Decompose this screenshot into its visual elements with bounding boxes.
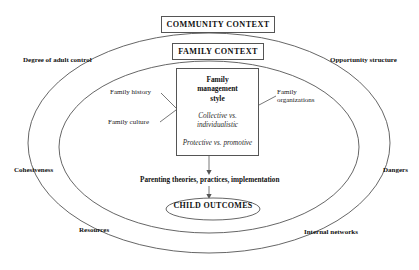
family-context-label: FAMILY CONTEXT (178, 47, 258, 56)
ecological-model-diagram: COMMUNITY CONTEXT FAMILY CONTEXT Family … (0, 0, 419, 270)
community-context-title-box: COMMUNITY CONTEXT (161, 16, 275, 33)
influence-label-family-organizations: Family organizations (277, 88, 323, 105)
connector-family-culture (160, 110, 176, 122)
family-management-title-line-2: management (197, 84, 238, 93)
connector-family-organizations (259, 96, 276, 105)
family-context-title-box: FAMILY CONTEXT (172, 43, 264, 60)
arrowhead-core-to-mediator (206, 170, 211, 175)
family-management-style-title: Family management style (197, 75, 238, 103)
mediator-label-parenting-theories: Parenting theories, practices, implement… (140, 176, 279, 184)
community-factor-dangers: Dangers (383, 167, 408, 175)
community-factor-internal-networks: Internal networks (304, 229, 358, 237)
family-management-dimension-protective: Protective vs. promotive (183, 139, 253, 148)
family-management-style-box: Family management style Collective vs. i… (176, 68, 259, 156)
community-factor-resources: Resources (79, 227, 109, 235)
influence-label-family-culture: Family culture (108, 118, 149, 126)
connector-family-history (161, 93, 176, 108)
community-factor-opportunity-structure: Opportunity structure (330, 57, 397, 65)
family-management-dimension-collective: Collective vs. individualistic (177, 112, 258, 130)
community-context-label: COMMUNITY CONTEXT (166, 20, 269, 29)
community-factor-cohesiveness: Cohesiveness (14, 167, 53, 175)
influence-label-family-history: Family history (110, 88, 151, 96)
child-outcomes-label: CHILD OUTCOMES (166, 201, 260, 210)
family-management-title-line-3: style (210, 94, 224, 103)
community-factor-degree-of-adult-control: Degree of adult control (23, 57, 92, 65)
family-management-title-line-1: Family (206, 75, 228, 84)
